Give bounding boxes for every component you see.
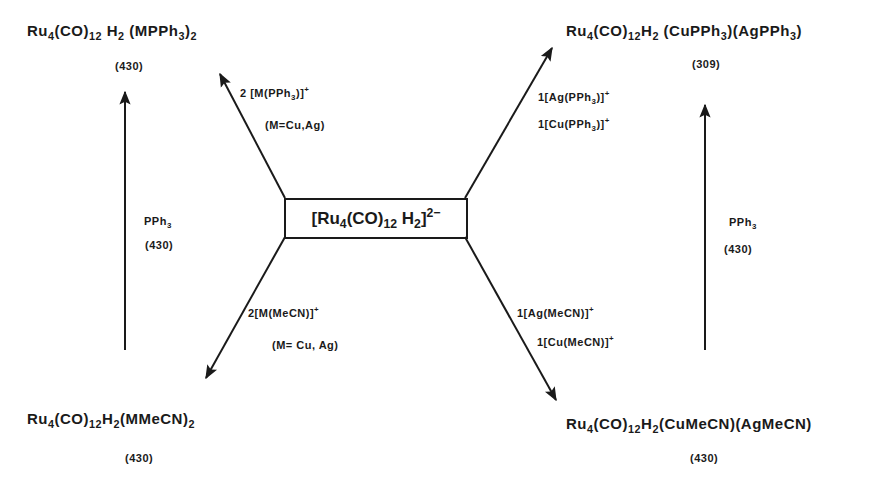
reagent-upper-right-line1: 1[Ag(PPh3)]+	[538, 91, 610, 103]
product-bottom-right-formula: Ru4(CO)12H2(CuMeCN)(AgMeCN)	[566, 415, 812, 432]
product-top-right-formula: Ru4(CO)12H2 (CuPPh3)(AgPPh3)	[566, 22, 802, 39]
product-bottom-right-ref: (430)	[690, 452, 718, 464]
reagent-lower-right-line1: 1[Ag(MeCN)]+	[517, 307, 594, 319]
reagent-lower-right-line2: 1[Cu(MeCN)]+	[537, 336, 614, 348]
product-bottom-left-formula: Ru4(CO)12H2(MMeCN)2	[27, 410, 195, 427]
reagent-lower-left-line2: (M= Cu, Ag)	[272, 339, 339, 351]
product-top-right-ref: (309)	[692, 58, 720, 70]
reagent-upper-left-line1: 2 [M(PPh3)]+	[240, 87, 309, 99]
product-top-left-ref: (430)	[115, 60, 143, 72]
reagent-right-vertical: PPh3	[729, 216, 757, 228]
reagent-upper-left-line2: (M=Cu,Ag)	[265, 119, 325, 131]
reagent-left-vertical-ref: (430)	[145, 239, 173, 251]
product-top-left-formula: Ru4(CO)12 H2 (MPPh3)2	[27, 22, 197, 39]
reactant-formula: [Ru4(CO)12 H2]2−	[311, 209, 440, 229]
reactant-box: [Ru4(CO)12 H2]2−	[284, 198, 468, 239]
product-bottom-left-ref: (430)	[125, 452, 153, 464]
reagent-right-vertical-ref: (430)	[724, 243, 752, 255]
reagent-left-vertical: PPh3	[144, 215, 172, 227]
reagent-lower-left-line1: 2[M(MeCN)]+	[248, 307, 319, 319]
reagent-upper-right-line2: 1[Cu(PPh3)]+	[538, 118, 610, 130]
